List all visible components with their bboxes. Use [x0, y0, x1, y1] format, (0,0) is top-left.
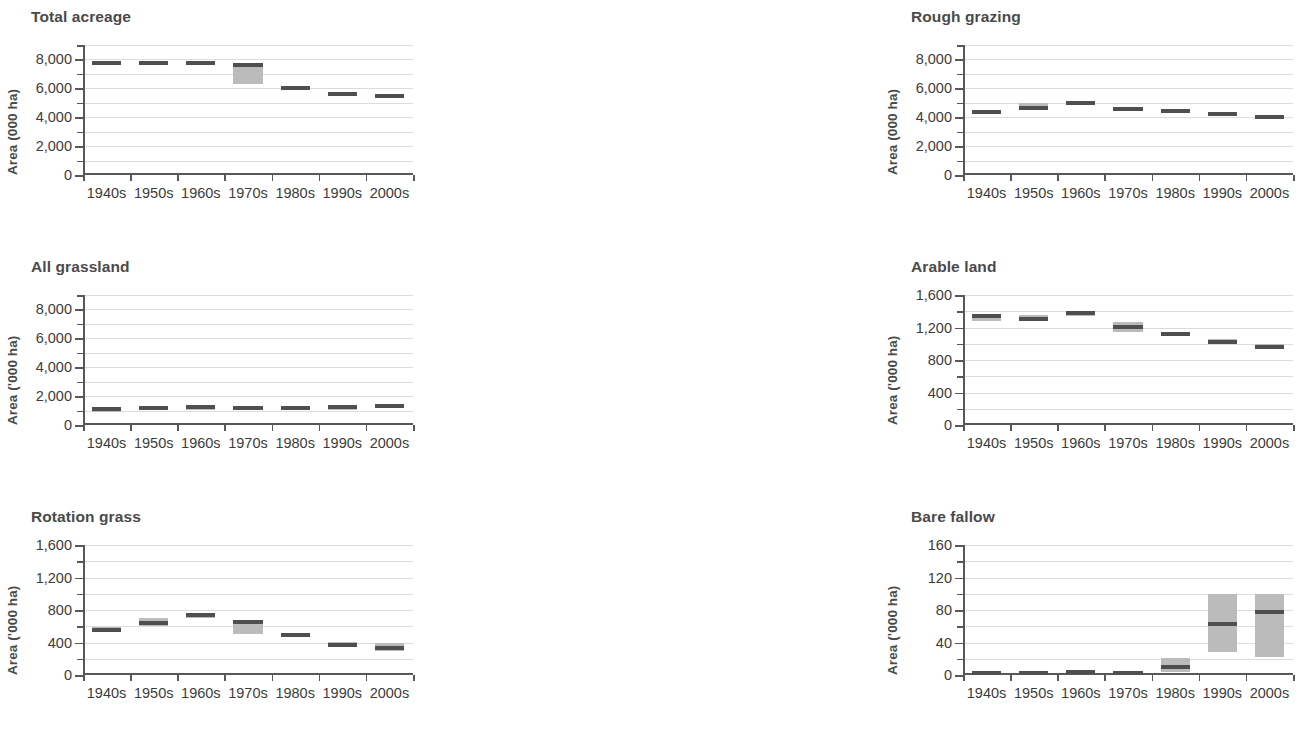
chart-panel-7: Rotation grassArea ('000 ha)04008001,200…: [0, 500, 440, 738]
x-tick-label: 2000s: [370, 685, 410, 701]
box-plot-median: [186, 613, 215, 617]
box-plot-median: [281, 633, 310, 637]
x-axis-tick: [413, 175, 415, 181]
plot-area: 04008001,2001,6001940s1950s1960s1970s198…: [83, 545, 413, 675]
chart-panel-9: Linear—hedgerowsArea ('000 ha)020,00040,…: [880, 500, 1306, 738]
plot-area: 02,0004,0006,0008,0001940s1950s1960s1970…: [83, 295, 413, 425]
gridline: [83, 132, 413, 133]
x-tick-label: 1970s: [228, 435, 268, 451]
chart-panel-1: Total acreageArea (000 ha)02,0004,0006,0…: [0, 0, 440, 250]
x-axis-tick: [319, 425, 321, 431]
box-plot-median: [92, 407, 121, 411]
y-tick-label: 8,000: [36, 51, 72, 67]
y-axis-line: [83, 45, 85, 175]
y-axis-major-tick: [75, 175, 83, 177]
box-plot-median: [328, 643, 357, 647]
panel-title: Total acreage: [31, 8, 131, 26]
y-axis-major-tick: [75, 643, 83, 645]
x-axis-tick: [177, 425, 179, 431]
gridline: [83, 396, 413, 397]
gridline: [83, 324, 413, 325]
x-tick-label: 1950s: [134, 185, 174, 201]
x-tick-label: 1960s: [181, 435, 221, 451]
chart-panel-6: Permanent grassArea ('000 ha)04008001,20…: [880, 250, 1306, 500]
y-tick-label: 2,000: [36, 138, 72, 154]
box-plot-median: [186, 61, 215, 65]
x-axis-tick: [224, 675, 226, 681]
x-tick-label: 1940s: [87, 185, 127, 201]
x-axis-tick: [272, 175, 274, 181]
x-tick-label: 1980s: [275, 435, 315, 451]
gridline: [83, 338, 413, 339]
plot-area: 02,0004,0006,0008,0001940s1950s1960s1970…: [83, 45, 413, 175]
x-axis-tick: [272, 675, 274, 681]
box-plot-median: [92, 628, 121, 632]
y-axis-major-tick: [75, 338, 83, 340]
x-axis-tick: [130, 425, 132, 431]
y-axis-major-tick: [75, 59, 83, 61]
y-axis-major-tick: [75, 88, 83, 90]
y-axis-label: Area ('000 ha): [5, 586, 20, 675]
gridline: [83, 382, 413, 383]
y-tick-label: 1,200: [36, 570, 72, 586]
x-axis-tick: [366, 425, 368, 431]
box-plot-median: [92, 61, 121, 65]
gridline: [83, 309, 413, 310]
gridline: [83, 161, 413, 162]
y-axis-line: [83, 295, 85, 425]
y-tick-label: 2,000: [36, 388, 72, 404]
x-tick-label: 2000s: [370, 435, 410, 451]
gridline: [83, 353, 413, 354]
gridline: [83, 45, 413, 46]
y-tick-label: 800: [48, 602, 72, 618]
panel-title: Rotation grass: [31, 508, 141, 526]
x-tick-label: 1980s: [275, 685, 315, 701]
x-axis-tick: [413, 675, 415, 681]
chart-panel-4: All grasslandArea ('000 ha)02,0004,0006,…: [0, 250, 440, 500]
gridline: [83, 88, 413, 89]
box-plot-median: [375, 646, 404, 650]
x-tick-label: 1960s: [181, 685, 221, 701]
chart-panel-2: Rough grazingArea (000 ha)02,0004,0006,0…: [440, 0, 880, 250]
box-plot-median: [328, 92, 357, 96]
y-axis-major-tick: [75, 675, 83, 677]
gridline: [83, 545, 413, 546]
gridline: [83, 561, 413, 562]
box-plot-median: [375, 404, 404, 408]
box-plot-median: [375, 94, 404, 98]
y-axis-label: Area ('000 ha): [5, 336, 20, 425]
x-axis-tick: [224, 175, 226, 181]
box-plot-median: [281, 406, 310, 410]
gridline: [83, 610, 413, 611]
x-axis-tick: [83, 175, 85, 181]
x-tick-label: 1940s: [87, 435, 127, 451]
y-axis-major-tick: [75, 396, 83, 398]
x-axis-tick: [366, 675, 368, 681]
y-tick-label: 0: [64, 417, 72, 433]
y-axis-major-tick: [75, 146, 83, 148]
y-tick-label: 6,000: [36, 330, 72, 346]
x-tick-label: 1950s: [134, 435, 174, 451]
x-tick-label: 1970s: [228, 685, 268, 701]
y-tick-label: 8,000: [36, 301, 72, 317]
y-tick-label: 400: [48, 635, 72, 651]
y-axis-label: Area (000 ha): [5, 89, 20, 175]
x-tick-label: 1990s: [323, 435, 363, 451]
x-axis-line: [83, 673, 413, 675]
x-axis-tick: [177, 675, 179, 681]
chart-panel-5: Arable landArea ('000 ha)04008001,2001,6…: [440, 250, 880, 500]
x-axis-tick: [319, 175, 321, 181]
gridline: [83, 578, 413, 579]
box-plot-median: [139, 61, 168, 65]
x-axis-tick: [272, 425, 274, 431]
gridline: [83, 659, 413, 660]
gridline: [83, 594, 413, 595]
y-tick-label: 4,000: [36, 359, 72, 375]
box-plot-median: [139, 406, 168, 410]
y-axis-major-tick: [75, 610, 83, 612]
box-plot-median: [328, 405, 357, 409]
gridline: [83, 59, 413, 60]
box-plot-median: [233, 406, 262, 410]
x-tick-label: 1980s: [275, 185, 315, 201]
gridline: [83, 643, 413, 644]
